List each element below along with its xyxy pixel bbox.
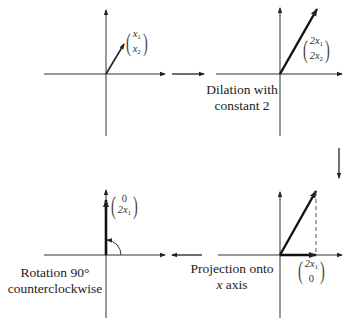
vector-x [106,44,124,74]
label-top-sub: 1 [137,33,141,41]
left-paren: ( [298,258,303,284]
vector-label-dilation: ( 2x1 2x2 ) [301,35,332,65]
label-top: 2x [305,258,315,269]
caption-dilation: Dilation with constant 2 [206,82,278,114]
label-bottom-sub: 2 [320,55,324,63]
caption-projection: Projection onto x axis [186,261,278,293]
label-bottom-sub: 1 [128,209,132,217]
label-bottom: 2x [310,50,320,61]
caption-line-1: Rotation 90° [6,265,104,281]
panel-rotation-axes [44,190,165,318]
right-paren: ) [325,37,330,63]
vector-label-projection: ( 2x1 0 ) [296,258,327,284]
label-top: 2x [310,35,320,46]
label-bottom: 2x [118,204,128,215]
panel-dilation-axes [216,8,342,136]
rotation-arc-icon [107,240,121,255]
label-bottom: 0 [309,273,314,284]
panel-projection-axes [218,191,342,318]
left-paren: ( [111,193,116,219]
caption-line-2: constant 2 [206,98,278,114]
caption-line-2: x axis [186,277,278,293]
vector-label-rotation: ( 0 2x1 ) [109,193,140,219]
right-paren: ) [143,30,148,56]
caption-line-2: counterclockwise [6,281,104,297]
right-paren: ) [133,193,138,219]
vector-dilated [280,191,316,255]
right-paren: ) [320,258,325,284]
label-bottom-sub: 2 [137,48,141,56]
caption-line-1: Dilation with [206,82,278,98]
vector-label-original: ( x1 x2 ) [124,28,150,58]
caption-rotation: Rotation 90° counterclockwise [6,265,104,297]
left-paren: ( [126,30,131,56]
left-paren: ( [303,37,308,63]
label-top-sub: 1 [315,263,319,271]
caption-line-1: Projection onto [186,261,278,277]
label-top: 0 [122,193,127,204]
label-top-sub: 1 [320,40,324,48]
